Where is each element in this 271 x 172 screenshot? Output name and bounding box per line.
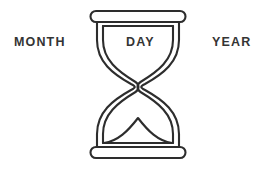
illustration-canvas: MONTH DAY YEAR [0,0,271,172]
hourglass-bottom-cap [91,147,186,158]
hourglass-outline [91,11,186,158]
hourglass-icon [0,0,271,172]
hourglass-top-cap [91,11,186,22]
hourglass-sand-mound [104,118,172,143]
